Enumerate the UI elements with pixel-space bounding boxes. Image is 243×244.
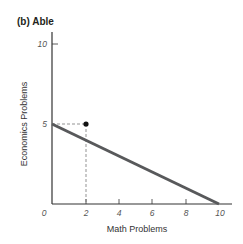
x-tick-2: 2 (83, 208, 89, 218)
ppf-line (52, 124, 219, 204)
x-axis-label: Math Problems (107, 224, 168, 234)
x-tick-0: 0 (42, 208, 47, 218)
chart-area: 10 5 0 2 4 6 8 10 Math Problems Economic… (0, 0, 243, 244)
y-axis-label: Economics Problems (19, 81, 29, 166)
y-tick-10: 10 (38, 39, 48, 49)
x-tick-4: 4 (117, 208, 122, 218)
data-point (83, 121, 88, 126)
x-tick-8: 8 (184, 208, 189, 218)
x-tick-6: 6 (150, 208, 155, 218)
y-tick-5: 5 (42, 119, 47, 129)
x-tick-10: 10 (215, 208, 225, 218)
